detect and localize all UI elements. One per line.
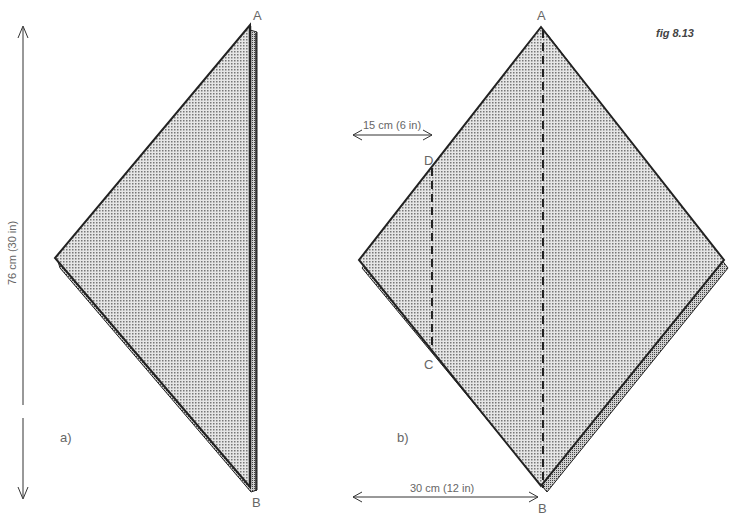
panel-b-point-c: C bbox=[424, 357, 433, 372]
fold-offset-dimension-label: 15 cm (6 in) bbox=[363, 119, 421, 131]
panel-b-vertex-a: A bbox=[537, 8, 546, 23]
height-dimension-label: 76 cm (30 in) bbox=[6, 218, 18, 288]
diagram-drawing bbox=[0, 0, 738, 526]
figure-caption: fig 8.13 bbox=[656, 27, 694, 39]
panel-b-label: b) bbox=[397, 430, 409, 445]
panel-b-vertex-b: B bbox=[538, 501, 547, 516]
panel-a-vertex-a: A bbox=[253, 8, 262, 23]
half-width-dimension-label: 30 cm (12 in) bbox=[410, 482, 474, 494]
panel-b-point-d: D bbox=[424, 153, 433, 168]
panel-b-diamond bbox=[359, 27, 728, 492]
panel-a-triangle bbox=[55, 25, 257, 492]
panel-a-label: a) bbox=[60, 430, 72, 445]
panel-a-vertex-b: B bbox=[252, 495, 261, 510]
diagram-canvas: 76 cm (30 in) A B a) A B D C b) 15 cm (6… bbox=[0, 0, 738, 526]
fold-offset-dimension-arrow bbox=[353, 130, 432, 140]
height-dimension-arrow bbox=[18, 26, 28, 499]
